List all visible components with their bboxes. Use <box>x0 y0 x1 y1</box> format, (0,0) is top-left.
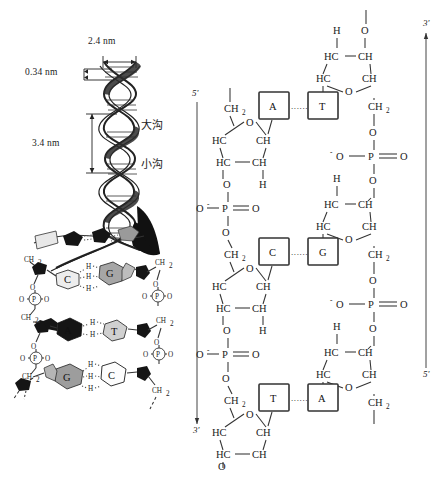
atom-o-right-1: O <box>369 127 377 138</box>
svg-text:O: O <box>167 293 172 301</box>
atom-o-left-4: O <box>223 325 231 336</box>
atom-ch-2-right: CH <box>362 73 377 84</box>
phosphate-r2-left: P O O <box>20 349 50 368</box>
ladder-pair-row-1: CH 2 O P O O C H H H <box>19 256 173 309</box>
svg-text:2: 2 <box>242 109 246 117</box>
atom-o-minus-right-2: O <box>336 299 344 310</box>
atom-ch-6-right: CH <box>362 369 377 380</box>
svg-text:O: O <box>143 351 148 359</box>
svg-text:2: 2 <box>242 255 246 263</box>
atom-hc-3-left: HC <box>212 281 227 292</box>
label-major-groove: 大沟 <box>141 116 163 132</box>
base-letter-G-2: G <box>319 247 327 258</box>
base-link-dots-2: ...... <box>291 247 308 257</box>
atom-h-right-2: H <box>333 173 341 184</box>
svg-text:P: P <box>32 296 36 304</box>
label-3prime-right-top: 3' <box>423 18 429 28</box>
right-strand-direction-axis <box>424 33 428 368</box>
label-5prime-right-bottom: 5' <box>423 369 429 379</box>
atom-p-right-2: P <box>368 299 374 310</box>
base-letter-T-1: T <box>319 101 326 112</box>
atom-ch-4-left: CH <box>252 303 267 314</box>
atom-ch2-r2-right: CH <box>156 317 166 325</box>
svg-text:P: P <box>156 351 160 359</box>
atom-o-right-3: O <box>369 175 377 186</box>
svg-text:-: - <box>330 149 333 157</box>
atom-hc-5-right: HC <box>324 347 339 358</box>
atom-hc-6-left: HC <box>216 449 231 460</box>
svg-text:O: O <box>218 461 226 472</box>
atom-ch-3-right: CH <box>358 199 373 210</box>
phosphate-r1-left: P O O <box>19 290 49 309</box>
base-pair-2: C G ...... <box>259 238 338 265</box>
atom-o-right-5: O <box>400 299 408 310</box>
atom-ch-6-left: CH <box>252 449 267 460</box>
atom-ch2-right-2: CH <box>368 249 383 260</box>
ladder-base-A-row2: A <box>64 325 72 336</box>
svg-text:P: P <box>155 293 159 301</box>
ladder-base-C-row1: C <box>64 274 71 285</box>
svg-text:O: O <box>20 355 25 363</box>
svg-text:O: O <box>45 355 50 363</box>
base-link-dots-1: ...... <box>291 101 308 111</box>
atom-ch2-r1-left: CH <box>24 256 34 264</box>
atom-hc-4-right: HC <box>316 221 331 232</box>
svg-text:2: 2 <box>36 376 40 384</box>
atom-ch-5-left: CH <box>256 427 271 438</box>
atom-ch2-left-1: CH <box>224 103 239 114</box>
atom-o-ring-left-3: O <box>246 409 254 420</box>
phosphate-r2-right: P O O <box>143 345 173 364</box>
svg-text:2: 2 <box>242 401 246 409</box>
atom-o-r1-left: O <box>30 284 35 292</box>
hbond-label-8: H <box>88 385 93 393</box>
svg-text:O: O <box>153 281 158 289</box>
atom-ch2-r2-left: CH <box>21 314 31 322</box>
base-letter-T-3: T <box>270 393 277 404</box>
atom-hc-5-left: HC <box>212 427 227 438</box>
chemical-structure-panel: O H HC CH HC CH O CH 2 O P O - O <box>190 0 443 477</box>
hbond-label-3: H <box>86 285 91 293</box>
atom-hc-2-right: HC <box>316 73 331 84</box>
atom-o-ring-right-3: O <box>345 382 353 393</box>
atom-o-top-right: O <box>361 25 369 36</box>
atom-hc-3-right: HC <box>324 199 339 210</box>
dna-figure: CH 2 O P O O C H H H <box>0 0 443 477</box>
atom-o-ring-left-1: O <box>246 117 254 128</box>
atom-o-left-5: O <box>252 349 260 360</box>
atom-ch2-left-3: CH <box>224 395 239 406</box>
atom-hc-2-left: HC <box>216 157 231 168</box>
svg-text:2: 2 <box>170 320 174 328</box>
base-letter-A-1: A <box>269 101 277 112</box>
atom-h-left-2: H <box>259 325 267 336</box>
ladder-pair-row-2: CH 2 O P O O A H H <box>20 309 174 368</box>
atom-o-minus-right-1: O <box>336 151 344 162</box>
svg-text:2: 2 <box>386 107 390 115</box>
atom-o-right-2: O <box>400 151 408 162</box>
phosphate-left-1: P O - O O <box>196 192 260 238</box>
svg-text:O: O <box>168 351 173 359</box>
atom-o-ring-right: O <box>345 86 353 97</box>
atom-p-left-2: P <box>222 349 228 360</box>
atom-ch-3-left: CH <box>256 281 271 292</box>
atom-hc-6-right: HC <box>316 369 331 380</box>
atom-h-right-3: H <box>333 321 341 332</box>
svg-text:2: 2 <box>386 403 390 411</box>
base-letter-C-2: C <box>269 247 276 258</box>
atom-hc-1-left: HC <box>212 135 227 146</box>
hbond-label-6: H <box>88 361 93 369</box>
ladder-base-C-row3: C <box>108 370 115 381</box>
atom-ch-4-right: CH <box>362 221 377 232</box>
atom-ch-2-left: CH <box>252 157 267 168</box>
svg-text:2: 2 <box>166 390 170 398</box>
ladder-base-G-row1: G <box>106 268 114 279</box>
base-pair-1: A T ...... <box>259 92 338 119</box>
ladder-base-T-row2: T <box>111 326 118 337</box>
hbond-label-2: H <box>86 273 91 281</box>
atom-o-minus-left-1: O <box>196 203 204 214</box>
atom-h-top-right: H <box>333 25 341 36</box>
label-dim-pitch: 3.4 nm <box>32 138 60 148</box>
label-dim-rise: 0.34 nm <box>25 67 58 77</box>
svg-text:O: O <box>142 293 147 301</box>
atom-h-left-1: H <box>259 179 267 190</box>
atom-o-left-6: O <box>222 373 230 384</box>
